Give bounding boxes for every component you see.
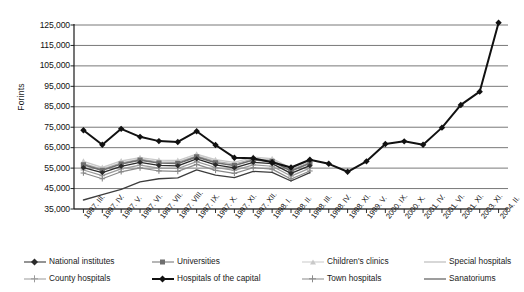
legend-label: Hospitals of the capital — [177, 274, 260, 282]
legend-swatch-icon — [424, 257, 446, 267]
legend-label: Children's clinics — [327, 257, 389, 265]
legend-swatch-icon — [152, 257, 174, 267]
legend-label: Town hospitals — [327, 274, 381, 282]
legend-label: Sanatoriums — [449, 274, 496, 282]
legend-swatch-icon — [424, 274, 446, 284]
chart-legend: National institutesUniversitiesChildren'… — [24, 253, 502, 287]
legend-item[interactable]: Sanatoriums — [424, 274, 524, 284]
legend-label: County hospitals — [49, 274, 110, 282]
legend-item[interactable]: Town hospitals — [302, 274, 424, 284]
legend-swatch-icon — [24, 274, 46, 284]
legend-item[interactable]: Children's clinics — [302, 257, 424, 267]
legend-item[interactable]: Hospitals of the capital — [152, 274, 302, 284]
legend-swatch-icon — [24, 257, 46, 267]
legend-item[interactable]: National institutes — [24, 257, 152, 267]
legend-item[interactable]: Universities — [152, 257, 302, 267]
legend-item[interactable]: Special hospitals — [424, 257, 524, 267]
x-axis-tick: 1998. II. — [290, 194, 313, 220]
legend-swatch-icon — [152, 274, 174, 284]
legend-label: Special hospitals — [449, 257, 511, 265]
legend-swatch-icon — [302, 274, 324, 284]
legend-label: National institutes — [49, 257, 115, 265]
legend-label: Universities — [177, 257, 220, 265]
legend-swatch-icon — [302, 257, 324, 267]
legend-item[interactable]: County hospitals — [24, 274, 152, 284]
